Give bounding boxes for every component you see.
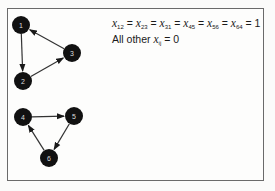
variable-term: x56: [207, 17, 219, 29]
edge-4-5: [32, 116, 64, 117]
node-4: 4: [14, 108, 32, 126]
node-3: 3: [63, 44, 81, 62]
edge-2-3: [31, 58, 64, 77]
equation-line-2: All other xij = 0: [112, 33, 260, 49]
variable-term: x23: [136, 17, 148, 29]
variable-term: x31: [160, 17, 172, 29]
edge-1-2: [21, 34, 22, 71]
variable-term: xij: [153, 33, 161, 45]
equation-line-1: x12 = x23 = x31 = x45 = x56 = x64 = 1: [112, 17, 260, 33]
variable-term: x12: [112, 17, 124, 29]
edges: [21, 30, 69, 151]
node-label: 3: [70, 50, 74, 57]
node-label: 2: [21, 78, 25, 85]
edge-5-6: [54, 124, 69, 150]
node-2: 2: [14, 72, 32, 90]
node-6: 6: [40, 149, 58, 167]
variable-term: x64: [231, 17, 243, 29]
node-label: 1: [19, 22, 23, 29]
nodes: 123456: [12, 16, 83, 167]
node-5: 5: [65, 107, 83, 125]
node-1: 1: [12, 16, 30, 34]
node-label: 5: [72, 113, 76, 120]
node-label: 6: [47, 155, 51, 162]
equation-block: x12 = x23 = x31 = x45 = x56 = x64 = 1 Al…: [112, 17, 260, 49]
variable-term: x45: [183, 17, 195, 29]
edge-6-4: [28, 125, 44, 150]
edge-3-1: [30, 30, 64, 49]
node-label: 4: [21, 114, 25, 121]
